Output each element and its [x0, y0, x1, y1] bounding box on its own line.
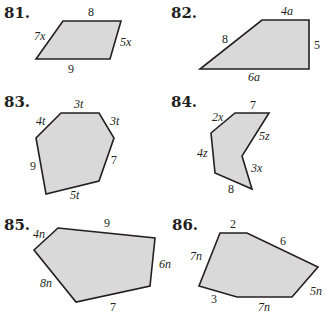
side-label-lower-left: 3	[211, 292, 217, 306]
problem-81: 81. 8 5x 9 7x	[4, 4, 132, 76]
side-label-top: 2	[230, 217, 236, 231]
problem-number: 84.	[171, 93, 197, 111]
side-label-right-lower: 3x	[250, 161, 263, 175]
problem-85: 85. 9 6n 7 8n 4n	[4, 216, 171, 314]
side-label-upper-left: 4n	[33, 227, 45, 241]
side-label-right: 5x	[120, 35, 132, 49]
side-label-bottom: 8	[228, 182, 234, 196]
side-label-top: 8	[88, 5, 94, 19]
problem-84: 84. 7 5z 3x 8 4z 2x	[171, 93, 270, 196]
side-label-left: 7x	[34, 29, 46, 43]
side-label-right: 5	[314, 38, 320, 52]
side-label-upper-left: 2x	[212, 110, 224, 124]
side-label-bottom: 5t	[70, 188, 80, 202]
side-label-right: 6n	[159, 257, 171, 271]
side-label-top: 9	[104, 216, 110, 230]
problem-number: 81.	[4, 4, 30, 22]
pentagon-figure	[34, 228, 155, 302]
side-label-slant: 8	[222, 32, 228, 46]
side-label-top: 3t	[73, 97, 84, 111]
hexagon-figure	[36, 113, 114, 194]
problem-number: 85.	[4, 216, 30, 234]
problem-number: 82.	[171, 4, 197, 22]
side-label-top: 7	[250, 98, 256, 112]
side-label-left: 4z	[197, 146, 208, 160]
side-label-bottom: 7n	[258, 300, 270, 314]
side-label-top: 4a	[281, 4, 293, 18]
quadrilateral-figure	[36, 21, 121, 59]
side-label-lower-left: 8n	[40, 276, 52, 290]
hexagon-figure	[199, 233, 318, 297]
side-label-lower-right: 7	[111, 153, 117, 167]
problem-83: 83. 3t 3t 7 5t 9 4t	[4, 93, 120, 202]
problem-82: 82. 4a 5 6a 8	[171, 4, 320, 84]
side-label-bottom: 6a	[248, 70, 260, 84]
side-label-right-upper: 5z	[259, 129, 270, 143]
trapezoid-figure	[200, 20, 309, 69]
side-label-lower-right: 5n	[310, 284, 322, 298]
side-label-left: 7n	[190, 249, 202, 263]
concave-hexagon-figure	[211, 113, 269, 189]
problem-number: 86.	[172, 216, 198, 234]
exercise-figures: 81. 8 5x 9 7x 82. 4a 5 6a 8 83. 3t 3t 7 …	[0, 0, 328, 315]
side-label-bottom: 7	[110, 300, 116, 314]
side-label-upper-right: 6	[280, 234, 286, 248]
side-label-bottom: 9	[68, 62, 74, 76]
problem-86: 86. 2 6 5n 7n 3 7n	[172, 216, 322, 314]
side-label-left: 9	[30, 159, 36, 173]
side-label-upper-left: 4t	[36, 114, 46, 128]
side-label-upper-right: 3t	[109, 114, 120, 128]
problem-number: 83.	[4, 93, 30, 111]
